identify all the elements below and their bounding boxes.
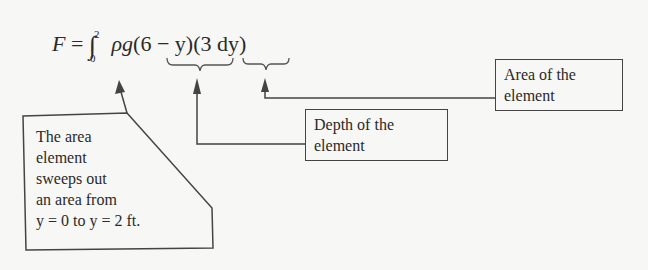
equals-sign: = [71,31,83,56]
rho-g: ρg [112,31,134,56]
sweep-area-label: The area element sweeps out an area from… [36,126,140,231]
label-line: element [504,85,614,106]
label-line: y = 0 to y = 2 ft. [36,210,140,231]
depth-of-element-label: Depth of the element [305,109,448,161]
label-line: Area of the [504,64,614,85]
upper-limit: 2 [94,28,100,40]
area-brace [243,58,289,70]
label-line: element [36,147,140,168]
force-symbol: F [52,31,65,56]
label-line: an area from [36,189,140,210]
label-line: Depth of the [314,114,439,135]
force-integral-equation: F = ∫20 ρg(6 − y)(3 dy) [52,28,246,58]
depth-term: (6 − y) [133,31,193,56]
depth-brace [167,58,233,71]
label-line: The area [36,126,140,147]
area-of-element-label: Area of the element [495,59,623,111]
lower-limit: 0 [90,52,96,64]
label-line: element [314,135,439,156]
area-term: (3 dy) [193,31,246,56]
label-line: sweeps out [36,168,140,189]
